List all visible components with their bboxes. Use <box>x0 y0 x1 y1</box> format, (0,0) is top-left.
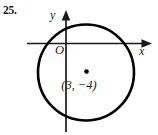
figure-container: 25. y x O (3, −4) <box>0 0 158 135</box>
x-axis-label: x <box>139 45 144 57</box>
y-axis-arrowhead-icon <box>62 10 71 21</box>
circle-diagram-graphic <box>0 0 158 135</box>
origin-label: O <box>55 44 64 57</box>
circle-center-point-marker <box>84 69 89 74</box>
circle-center-coordinates-label: (3, −4) <box>0 79 158 92</box>
y-axis-label: y <box>50 9 55 21</box>
